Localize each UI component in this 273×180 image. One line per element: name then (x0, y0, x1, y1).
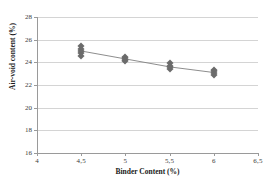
trend-line (0, 0, 273, 180)
x-axis-title: Binder Content (%) (37, 167, 258, 176)
chart-container: 1618202224262844,555,566,5 Binder Conten… (0, 0, 273, 180)
y-axis-title: Air-void content (%) (8, 2, 17, 112)
trend-line-path (81, 51, 214, 73)
